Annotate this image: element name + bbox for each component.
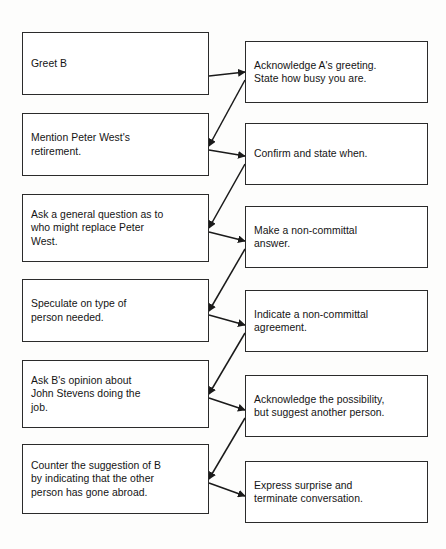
flow-box-b5-label: Acknowledge the possibility, but suggest… <box>246 393 392 419</box>
flow-box-b1-label: Acknowledge A's greeting. State how busy… <box>246 59 385 85</box>
connector-a4-b4 <box>209 315 245 325</box>
flow-box-a6[interactable]: Counter the suggestion of B by indicatin… <box>22 444 209 514</box>
connector-a5-b5 <box>209 398 245 410</box>
flow-box-a4-label: Speculate on type of person needed. <box>23 297 135 323</box>
flow-box-b4[interactable]: Indicate a non-committal agreement. <box>245 290 428 352</box>
flow-box-b2[interactable]: Confirm and state when. <box>245 123 428 185</box>
flow-box-a1[interactable]: Greet B <box>22 32 209 95</box>
flow-box-b6-label: Express surprise and terminate conversat… <box>246 479 371 505</box>
connector-b2-a3 <box>209 164 245 228</box>
flow-box-a4[interactable]: Speculate on type of person needed. <box>22 279 209 342</box>
flow-box-a3[interactable]: Ask a general question as to who might r… <box>22 194 209 262</box>
flow-box-b1[interactable]: Acknowledge A's greeting. State how busy… <box>245 41 428 103</box>
flow-box-a5[interactable]: Ask B's opinion about John Stevens doing… <box>22 360 209 428</box>
flow-box-b6[interactable]: Express surprise and terminate conversat… <box>245 461 428 523</box>
flow-box-a3-label: Ask a general question as to who might r… <box>23 208 171 248</box>
connector-b1-a2 <box>209 80 245 146</box>
connector-a6-b6 <box>209 483 245 496</box>
flow-box-b2-label: Confirm and state when. <box>246 147 376 160</box>
connector-b5-a6 <box>209 418 245 479</box>
flow-box-b4-label: Indicate a non-committal agreement. <box>246 308 376 334</box>
conversation-flowchart: Greet B Mention Peter West's retirement.… <box>0 0 446 549</box>
flow-box-b3-label: Make a non-committal answer. <box>246 224 365 250</box>
flow-box-b3[interactable]: Make a non-committal answer. <box>245 206 428 268</box>
connector-a2-b2 <box>209 150 245 156</box>
connector-b3-a4 <box>209 249 245 311</box>
flow-box-a2[interactable]: Mention Peter West's retirement. <box>22 113 209 176</box>
flow-box-a2-label: Mention Peter West's retirement. <box>23 131 138 157</box>
connector-a3-b3 <box>209 232 245 241</box>
flow-box-a6-label: Counter the suggestion of B by indicatin… <box>23 459 169 499</box>
flow-box-b5[interactable]: Acknowledge the possibility, but suggest… <box>245 375 428 437</box>
flow-box-a1-label: Greet B <box>23 57 75 70</box>
connector-a1-b1 <box>209 72 245 76</box>
connector-b4-a5 <box>209 333 245 394</box>
flow-box-a5-label: Ask B's opinion about John Stevens doing… <box>23 374 148 414</box>
